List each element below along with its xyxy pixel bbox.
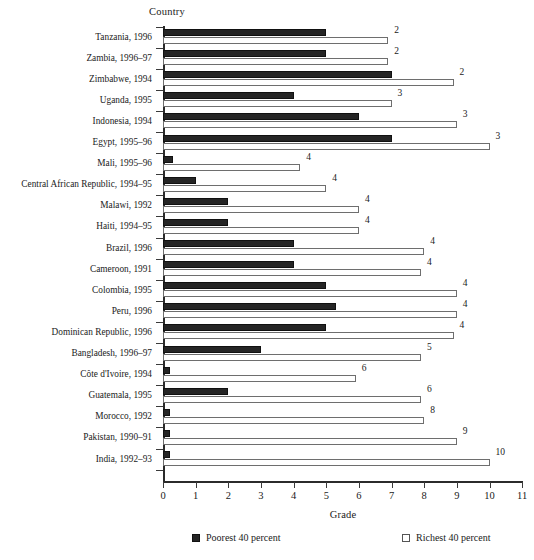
category-label: Indonesia, 1994 [0,116,152,126]
category-label: Peru, 1996 [0,306,152,316]
x-axis-tick-label: 8 [412,490,436,502]
x-axis-tick-label: 9 [445,490,469,502]
bar-value-label: 4 [365,216,370,226]
bar-richest [163,100,392,107]
bar-poorest [163,135,392,142]
x-axis-tick-label: 3 [249,490,273,502]
bar-richest [163,332,454,339]
category-label: Bangladesh, 1996–97 [0,348,152,358]
x-axis-tick-label: 11 [510,490,534,502]
bar-value-label: 6 [362,364,367,374]
category-label: Guatemala, 1995 [0,390,152,400]
category-label: Côte d'Ivoire, 1994 [0,369,152,379]
legend-label-richest: Richest 40 percent [416,532,490,543]
category-tick [156,174,163,175]
category-label: Morocco, 1992 [0,411,152,421]
category-tick [156,259,163,260]
chart-row: 2 [163,26,523,47]
category-tick [156,385,163,386]
bar-richest [163,143,490,150]
bar-richest [163,438,457,445]
category-tick [156,343,163,344]
x-axis-tick [294,482,295,488]
x-axis-tick [326,482,327,488]
chart-legend: Poorest 40 percent Richest 40 percent [0,532,534,550]
x-axis-tick-label: 10 [478,490,502,502]
category-tick [156,111,163,112]
x-axis-tick [457,482,458,488]
bar-poorest [163,240,294,247]
legend-swatch-richest-icon [402,534,410,542]
bar-richest [163,121,457,128]
bar-poorest [163,303,336,310]
category-label: Mali, 1995–96 [0,158,152,168]
category-tick [156,48,163,49]
legend-label-poorest: Poorest 40 percent [206,532,280,543]
bar-poorest [163,198,228,205]
x-axis-tick-label: 0 [151,490,175,502]
chart-row: 10 [163,448,523,469]
bar-poorest [163,409,170,416]
bar-richest [163,227,359,234]
bar-richest [163,396,421,403]
category-tick [156,69,163,70]
bar-poorest [163,50,326,57]
chart-row: 5 [163,343,523,364]
bar-value-label: 3 [398,89,403,99]
bar-richest [163,417,424,424]
bar-value-label: 2 [460,68,465,78]
category-tick [156,27,163,28]
bar-value-label: 9 [463,427,468,437]
bar-richest [163,185,326,192]
bar-richest [163,459,490,466]
bar-poorest [163,367,170,374]
category-label: Cameroon, 1991 [0,264,152,274]
chart-row: 3 [163,132,523,153]
category-tick [156,449,163,450]
chart-row: 4 [163,300,523,321]
bar-value-label: 4 [332,174,337,184]
chart-row: 4 [163,195,523,216]
category-label: Uganda, 1995 [0,95,152,105]
x-axis-tick [522,482,523,488]
bar-poorest [163,451,170,458]
chart-row: 6 [163,364,523,385]
bar-poorest [163,219,228,226]
bar-value-label: 4 [463,279,468,289]
category-label: Haiti, 1994–95 [0,221,152,231]
chart-row: 4 [163,153,523,174]
legend-swatch-poorest-icon [192,534,200,542]
x-axis-tick [490,482,491,488]
bar-value-label: 8 [430,406,435,416]
bar-poorest [163,71,392,78]
bar-poorest [163,388,228,395]
x-axis-tick-label: 7 [380,490,404,502]
bar-poorest [163,261,294,268]
bar-value-label: 2 [394,26,399,36]
category-label: Brazil, 1996 [0,243,152,253]
category-label: Pakistan, 1990–91 [0,432,152,442]
chart-row: 8 [163,406,523,427]
bar-value-label: 4 [365,195,370,205]
plot-area: 2223334444444445668910 [163,26,523,478]
category-tick [156,238,163,239]
bar-value-label: 10 [496,448,506,458]
bar-value-label: 3 [463,110,468,120]
x-axis-tick [228,482,229,488]
category-tick [156,470,163,471]
bar-richest [163,354,421,361]
grade-axis-title: Grade [163,509,523,520]
x-axis-tick [359,482,360,488]
country-axis-title: Country [112,6,222,17]
category-tick [156,132,163,133]
x-axis-tick [196,482,197,488]
legend-item-richest: Richest 40 percent [402,532,490,544]
bar-poorest [163,324,326,331]
bar-richest [163,79,454,86]
x-axis-tick [261,482,262,488]
bar-poorest [163,346,261,353]
category-tick [156,427,163,428]
bar-value-label: 5 [427,343,432,353]
bar-poorest [163,282,326,289]
bar-poorest [163,430,170,437]
